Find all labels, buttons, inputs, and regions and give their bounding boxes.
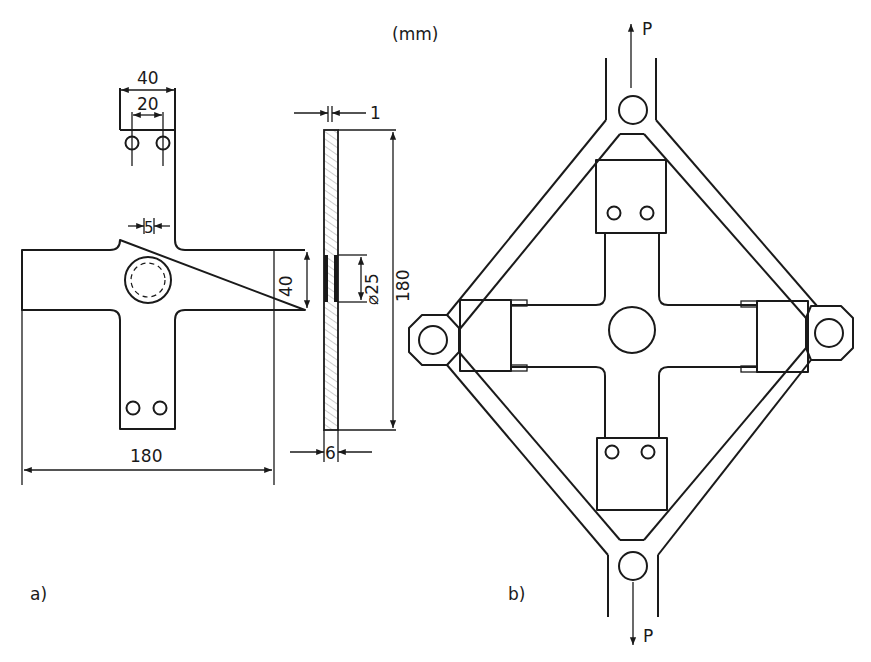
dim-thickness-1: 1 bbox=[370, 103, 381, 123]
drawing-canvas: (mm) 40 20 5 40 bbox=[0, 0, 871, 662]
figure-b-label: b) bbox=[508, 584, 525, 604]
dim-tab-width: 40 bbox=[137, 68, 159, 88]
load-top-label: P bbox=[642, 19, 652, 39]
top-pin bbox=[619, 96, 647, 124]
dim-overall-length: 180 bbox=[130, 446, 162, 466]
bolt-hole bbox=[154, 402, 167, 415]
load-bottom-label: P bbox=[643, 626, 653, 646]
center-hole bbox=[125, 257, 171, 303]
reinforcement-right bbox=[334, 255, 338, 302]
side-section-view: 1 ⌀25 180 6 bbox=[290, 103, 413, 463]
bottom-pin bbox=[619, 552, 647, 580]
dim-side-thickness: 6 bbox=[325, 443, 336, 463]
dim-arm-width: 40 bbox=[276, 275, 296, 297]
loading-frame bbox=[409, 58, 853, 617]
reinforcement-left bbox=[324, 255, 328, 302]
cruciform-specimen-mounted bbox=[460, 160, 808, 510]
left-pin bbox=[419, 326, 447, 354]
cruciform-specimen-plan bbox=[22, 88, 305, 429]
right-joint bbox=[806, 306, 853, 360]
figure-a-label: a) bbox=[30, 584, 47, 604]
left-joint bbox=[409, 315, 459, 365]
right-pin bbox=[815, 319, 843, 347]
dim-hole-spacing: 20 bbox=[137, 94, 159, 114]
dim-reinforcement-diameter: ⌀25 bbox=[362, 273, 382, 305]
dim-fillet: 5 bbox=[144, 219, 154, 237]
dim-side-length: 180 bbox=[393, 270, 413, 302]
center-hole-b bbox=[609, 307, 655, 353]
bolt-hole bbox=[127, 402, 140, 415]
reinforcement-outline bbox=[131, 263, 165, 297]
units-label: (mm) bbox=[392, 24, 438, 44]
